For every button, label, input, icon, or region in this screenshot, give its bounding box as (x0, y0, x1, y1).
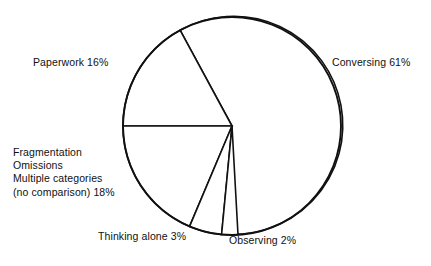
pie-chart-figure: Paperwork 16% Conversing 61% Fragmentati… (0, 0, 431, 266)
slice-label-observing: Observing 2% (229, 234, 296, 247)
slice-label-thinking-alone: Thinking alone 3% (98, 230, 186, 243)
slice-label-conversing: Conversing 61% (332, 56, 410, 69)
slice-label-fragmentation: Fragmentation Omissions Multiple categor… (13, 146, 115, 199)
pie-chart-canvas (0, 0, 431, 266)
slice-label-paperwork: Paperwork 16% (33, 56, 108, 69)
